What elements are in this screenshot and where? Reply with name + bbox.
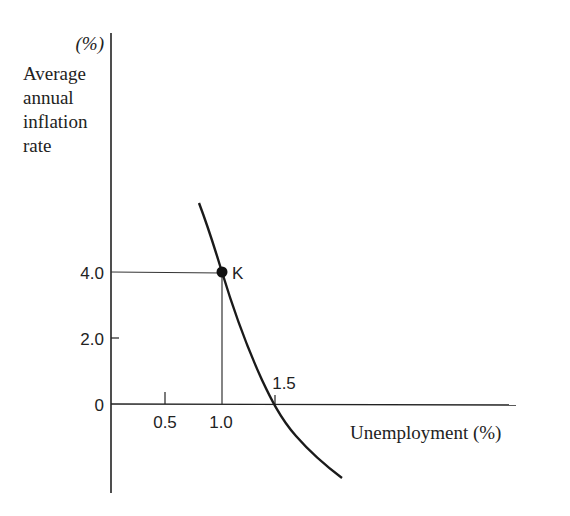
- phillips-curve: [199, 203, 342, 478]
- y-axis-label-line1: Average: [23, 63, 86, 84]
- x-axis: [111, 404, 516, 405]
- x-tick-label-1.0: 1.0: [209, 413, 233, 432]
- point-k-marker: [217, 267, 228, 278]
- y-axis-label-line4: rate: [23, 135, 51, 156]
- y-axis-unit: (%): [76, 33, 104, 55]
- y-tick-label-0: 0: [95, 396, 104, 415]
- phillips-curve-chart: K 4.0 2.0 0 0.5 1.0 1.5 (%) Average annu…: [0, 0, 570, 516]
- x-tick-label-1.5: 1.5: [272, 374, 296, 393]
- y-tick-label-2: 2.0: [80, 330, 104, 349]
- k-horizontal-guide: [111, 272, 222, 273]
- x-axis-label: Unemployment (%): [350, 422, 501, 444]
- y-axis-label-line2: annual: [23, 87, 74, 108]
- x-tick-label-0.5: 0.5: [153, 413, 177, 432]
- point-k-label: K: [232, 264, 244, 283]
- y-tick-label-4: 4.0: [80, 264, 104, 283]
- y-axis-label-line3: inflation: [23, 111, 88, 132]
